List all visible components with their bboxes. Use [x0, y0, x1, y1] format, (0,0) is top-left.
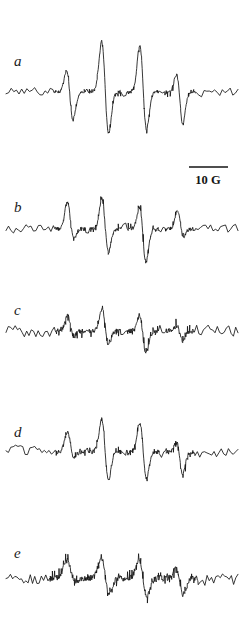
- trace-label-b: b: [14, 199, 22, 215]
- trace-label-a: a: [14, 53, 22, 69]
- scale-bar-label: 10 G: [195, 173, 221, 187]
- trace-label-d: d: [14, 424, 22, 440]
- epr-spectra-figure: abcde 10 G: [0, 0, 245, 631]
- trace-label-e: e: [14, 545, 21, 561]
- trace-label-c: c: [14, 302, 21, 318]
